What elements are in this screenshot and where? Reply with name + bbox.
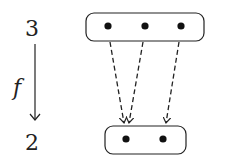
source-set-label: 3 xyxy=(25,16,39,41)
mapping-arrows xyxy=(110,42,179,123)
mapping-arrow xyxy=(166,42,179,123)
mapping-arrow xyxy=(129,42,143,123)
source-point xyxy=(177,22,184,29)
function-diagram: 3 2 f xyxy=(0,0,238,166)
mapping-arrow xyxy=(110,42,124,123)
source-point xyxy=(104,22,111,29)
target-set xyxy=(105,126,186,154)
target-point xyxy=(159,135,166,142)
map-arrow xyxy=(30,44,40,120)
target-point xyxy=(122,135,129,142)
map-label: f xyxy=(11,75,25,100)
target-set-label: 2 xyxy=(25,130,39,155)
source-set xyxy=(86,13,204,41)
source-point xyxy=(141,22,148,29)
